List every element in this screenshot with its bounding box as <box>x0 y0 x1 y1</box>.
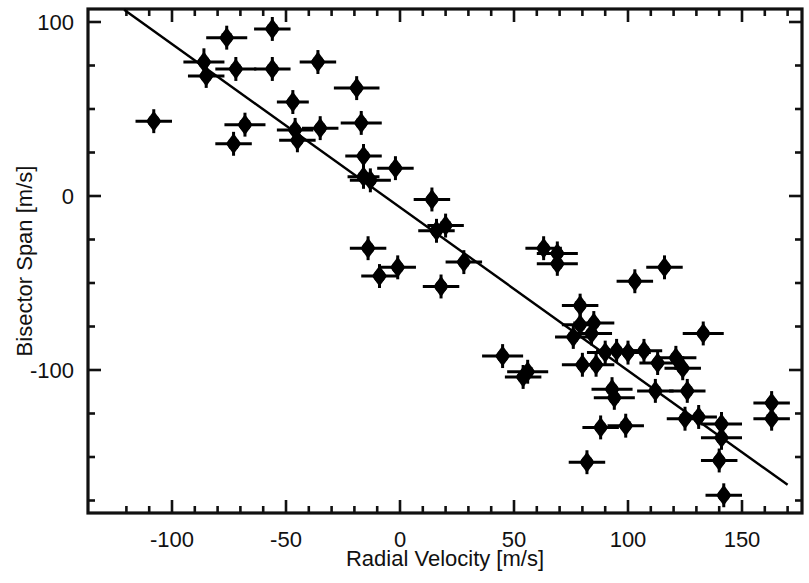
marker-diamond <box>696 323 711 344</box>
data-point-marker <box>265 18 280 39</box>
marker-diamond <box>356 145 371 166</box>
data-point-marker <box>714 427 729 448</box>
data-point-marker <box>677 408 692 429</box>
marker-diamond <box>354 112 369 133</box>
data-point-marker <box>199 65 214 86</box>
data-point-marker <box>354 112 369 133</box>
marker-diamond <box>349 78 364 99</box>
data-point-marker <box>648 380 663 401</box>
marker-diamond <box>360 238 375 259</box>
marker-diamond <box>712 450 727 471</box>
data-point-marker <box>356 145 371 166</box>
x-tick-label: -50 <box>270 527 302 552</box>
plot-frame <box>88 9 802 513</box>
data-point-marker <box>285 92 300 113</box>
marker-diamond <box>456 252 471 273</box>
axis-ticks <box>88 9 802 513</box>
data-point-marker <box>579 452 594 473</box>
marker-diamond <box>677 408 692 429</box>
data-point-marker <box>495 346 510 367</box>
data-point-marker <box>313 118 328 139</box>
x-tick-label: 150 <box>724 527 761 552</box>
data-point-marker <box>593 417 608 438</box>
x-axis-label: Radial Velocity [m/s] <box>346 546 544 571</box>
marker-diamond <box>536 238 551 259</box>
data-point-marker <box>627 271 642 292</box>
marker-diamond <box>226 133 241 154</box>
data-point-marker <box>620 342 635 363</box>
marker-diamond <box>680 380 695 401</box>
marker-diamond <box>388 158 403 179</box>
data-point-marker <box>310 52 325 73</box>
marker-diamond <box>199 65 214 86</box>
marker-diamond <box>579 452 594 473</box>
data-point-marker <box>573 295 588 316</box>
marker-diamond <box>636 340 651 361</box>
marker-diamond <box>627 271 642 292</box>
data-point-marker <box>575 354 590 375</box>
marker-diamond <box>618 415 633 436</box>
data-point-marker <box>536 238 551 259</box>
data-point-marker <box>219 27 234 48</box>
marker-diamond <box>228 58 243 79</box>
data-point-marker <box>657 257 672 278</box>
data-point-marker <box>349 78 364 99</box>
plot-box <box>88 9 802 513</box>
marker-diamond <box>620 342 635 363</box>
y-tick-label: -100 <box>30 358 74 383</box>
marker-diamond <box>310 52 325 73</box>
y-tick-label: 0 <box>62 184 74 209</box>
marker-diamond <box>593 417 608 438</box>
marker-diamond <box>650 353 665 374</box>
x-tick-label: -100 <box>150 527 194 552</box>
marker-diamond <box>573 295 588 316</box>
data-points <box>146 18 779 505</box>
data-point-marker <box>226 133 241 154</box>
data-point-marker <box>433 276 448 297</box>
y-tick-label: 100 <box>37 10 74 35</box>
data-point-marker <box>388 158 403 179</box>
data-point-marker <box>237 114 252 135</box>
data-point-marker <box>228 58 243 79</box>
marker-diamond <box>716 485 731 506</box>
marker-diamond <box>219 27 234 48</box>
scatter-plot-figure: -100-50050100150 1000-100 Radial Velocit… <box>0 0 809 583</box>
data-point-marker <box>680 380 695 401</box>
marker-diamond <box>285 92 300 113</box>
data-point-marker <box>716 485 731 506</box>
marker-diamond <box>764 408 779 429</box>
y-axis-label: Bisector Span [m/s] <box>12 166 37 357</box>
marker-diamond <box>424 189 439 210</box>
data-point-marker <box>712 450 727 471</box>
marker-diamond <box>237 114 252 135</box>
marker-diamond <box>265 18 280 39</box>
marker-diamond <box>575 354 590 375</box>
data-point-marker <box>618 415 633 436</box>
marker-diamond <box>495 346 510 367</box>
data-point-marker <box>360 238 375 259</box>
data-point-marker <box>424 189 439 210</box>
data-point-marker <box>696 323 711 344</box>
marker-diamond <box>265 58 280 79</box>
marker-diamond <box>648 380 663 401</box>
data-point-marker <box>456 252 471 273</box>
data-point-marker <box>636 340 651 361</box>
data-point-marker <box>650 353 665 374</box>
marker-diamond <box>146 111 161 132</box>
marker-diamond <box>714 427 729 448</box>
data-point-marker <box>764 408 779 429</box>
data-point-marker <box>265 58 280 79</box>
marker-diamond <box>433 276 448 297</box>
marker-diamond <box>657 257 672 278</box>
x-tick-label: 100 <box>610 527 647 552</box>
data-point-marker <box>146 111 161 132</box>
marker-diamond <box>313 118 328 139</box>
